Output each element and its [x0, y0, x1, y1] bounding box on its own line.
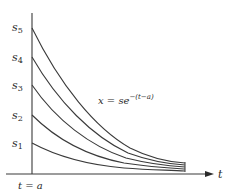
t-equals-a-label: t = a [18, 180, 43, 191]
label-s4: s4 [12, 51, 23, 65]
curve-s4 [32, 57, 185, 165]
curve-s1 [32, 143, 185, 171]
label-s1: s1 [12, 137, 23, 151]
t-axis-arrowhead-icon [205, 171, 214, 177]
label-s2: s2 [12, 109, 23, 123]
t-axis-label: t [218, 168, 223, 181]
equation-label: x = se−(t−a) [98, 93, 154, 106]
label-s3: s3 [12, 79, 23, 93]
label-s5: s5 [12, 21, 23, 35]
exponential-decay-diagram: s5 s4 s3 s2 s1 x = se−(t−a) t t = a [0, 0, 236, 191]
